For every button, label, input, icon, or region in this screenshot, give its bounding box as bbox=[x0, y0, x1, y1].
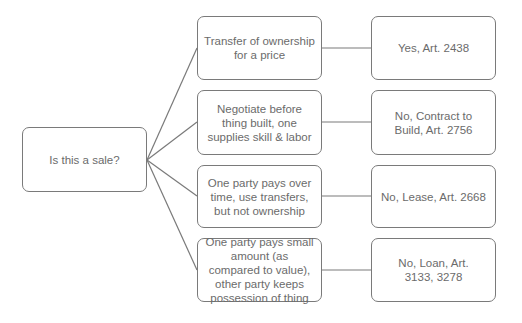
condition-node-4: One party pays small amount (as compared… bbox=[197, 238, 322, 302]
connector-root-branch-4 bbox=[147, 160, 197, 270]
condition-node-3: One party pays over time, use transfers,… bbox=[197, 165, 322, 228]
connector-root-branch-1 bbox=[147, 48, 197, 160]
connector-root-branch-2 bbox=[147, 122, 197, 160]
condition-label: Negotiate before thing built, one suppli… bbox=[204, 102, 315, 144]
condition-label: One party pays small amount (as compared… bbox=[204, 235, 315, 305]
result-node-3: No, Lease, Art. 2668 bbox=[371, 165, 496, 228]
result-label: No, Loan, Art. 3133, 3278 bbox=[390, 256, 477, 284]
root-node: Is this a sale? bbox=[22, 127, 147, 192]
condition-node-2: Negotiate before thing built, one suppli… bbox=[197, 90, 322, 155]
condition-node-1: Transfer of ownership for a price bbox=[197, 16, 322, 80]
result-label: No, Contract to Build, Art. 2756 bbox=[386, 109, 481, 137]
connector-root-branch-3 bbox=[147, 160, 197, 196]
condition-label: One party pays over time, use transfers,… bbox=[204, 176, 315, 218]
result-node-2: No, Contract to Build, Art. 2756 bbox=[371, 90, 496, 155]
root-label: Is this a sale? bbox=[49, 153, 119, 167]
result-node-4: No, Loan, Art. 3133, 3278 bbox=[371, 238, 496, 302]
result-label: Yes, Art. 2438 bbox=[398, 41, 469, 55]
result-label: No, Lease, Art. 2668 bbox=[381, 190, 486, 204]
result-node-1: Yes, Art. 2438 bbox=[371, 16, 496, 80]
condition-label: Transfer of ownership for a price bbox=[204, 34, 315, 62]
